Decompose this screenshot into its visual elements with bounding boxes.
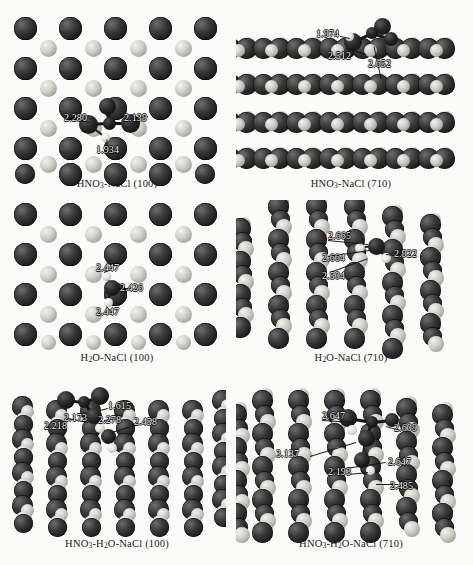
- chloride-ion: [59, 203, 82, 226]
- sodium-ion: [130, 40, 147, 57]
- sodium-ion: [85, 40, 102, 57]
- distance-label: 1.934: [96, 144, 119, 155]
- chloride-ion: [59, 163, 82, 186]
- panel-caption: H2O-NaCl (100): [8, 352, 226, 364]
- chloride-ion: [149, 243, 172, 266]
- distance-label: 2.173: [64, 412, 87, 423]
- sodium-ion: [131, 335, 146, 350]
- chloride-ion: [236, 317, 251, 338]
- chloride-ion: [59, 57, 82, 80]
- sodium-ion: [236, 44, 245, 57]
- chloride-ion: [15, 164, 35, 184]
- sodium-ion: [86, 335, 101, 350]
- sodium-ion: [85, 80, 102, 97]
- chloride-ion: [194, 323, 217, 346]
- sodium-ion: [331, 154, 344, 167]
- distance-label: 2.458: [134, 416, 157, 427]
- chloride-ion: [324, 522, 345, 543]
- sodium-ion: [298, 118, 311, 131]
- sodium-ion: [364, 80, 377, 93]
- oxygen-atom: [368, 238, 385, 255]
- measurement-leader-line: [100, 408, 108, 411]
- molecular-structure-figure: 2.2802.1391.934 HNO3-NaCl (100) 1.9742.5…: [0, 0, 473, 565]
- sodium-ion: [265, 154, 278, 167]
- chloride-ion: [149, 137, 172, 160]
- sodium-ion: [298, 80, 311, 93]
- chloride-ion: [382, 338, 403, 359]
- chloride-ion: [104, 57, 127, 80]
- panel-caption: HNO3-NaCl (710): [236, 178, 466, 190]
- chloride-ion: [194, 137, 217, 160]
- distance-label: 1.974: [316, 28, 339, 39]
- chloride-ion: [149, 323, 172, 346]
- sodium-ion: [236, 118, 245, 131]
- sodium-ion: [298, 44, 311, 57]
- sodium-ion: [331, 118, 344, 131]
- panel-h2o-nacl-710: 2.6652.6642.9222.504 H2O-NaCl (710): [236, 200, 466, 372]
- chloride-ion: [149, 57, 172, 80]
- sodium-ion: [40, 120, 57, 137]
- sodium-ion: [85, 156, 102, 173]
- sodium-ion: [175, 40, 192, 57]
- chloride-ion: [214, 508, 227, 527]
- distance-label: 2.278: [98, 414, 121, 425]
- sodium-ion: [40, 266, 57, 283]
- sodium-ion: [175, 226, 192, 243]
- sodium-ion: [265, 80, 278, 93]
- sodium-ion: [130, 306, 147, 323]
- hydrogen-atom: [101, 133, 110, 142]
- sodium-ion: [364, 118, 377, 131]
- distance-label: 2.485: [390, 480, 413, 491]
- sodium-ion: [40, 40, 57, 57]
- sodium-ion: [430, 118, 443, 131]
- sodium-ion: [175, 266, 192, 283]
- oxygen-atom: [384, 32, 398, 46]
- distance-label: 2.447: [96, 306, 119, 317]
- chloride-ion: [344, 328, 365, 349]
- chloride-ion: [59, 243, 82, 266]
- chloride-ion: [59, 283, 82, 306]
- sodium-ion: [40, 306, 57, 323]
- sodium-ion: [430, 154, 443, 167]
- distance-label: 2.512: [328, 50, 351, 61]
- chloride-ion: [184, 518, 203, 537]
- panel-caption: H2O-NaCl (710): [236, 352, 466, 364]
- sodium-ion: [40, 80, 57, 97]
- panel-canvas: 1.6152.1732.2182.2782.458: [8, 374, 226, 560]
- chloride-ion: [252, 522, 273, 543]
- distance-label: 2.647: [388, 456, 411, 467]
- sodium-ion: [397, 118, 410, 131]
- sodium-ion: [298, 154, 311, 167]
- sodium-ion: [175, 156, 192, 173]
- panel-hno3-h2o-nacl-710: 2.6472.6093.1372.6472.1932.485 HNO3-H2O-…: [236, 374, 466, 560]
- sodium-ion: [175, 306, 192, 323]
- chloride-ion: [150, 518, 169, 537]
- chloride-ion: [149, 97, 172, 120]
- sodium-ion: [176, 335, 191, 350]
- chloride-ion: [116, 518, 135, 537]
- distance-label: 2.218: [44, 420, 67, 431]
- chloride-ion: [104, 163, 127, 186]
- nitrogen-atom: [366, 27, 378, 39]
- distance-label: 2.193: [328, 466, 351, 477]
- sodium-ion: [175, 120, 192, 137]
- hydrogen-atom: [347, 425, 357, 435]
- chloride-ion: [195, 164, 215, 184]
- chloride-ion: [268, 328, 289, 349]
- sodium-ion: [40, 226, 57, 243]
- chloride-ion: [14, 514, 33, 533]
- panel-canvas: 2.6652.6642.9222.504: [236, 200, 466, 372]
- hydrogen-atom: [345, 32, 354, 41]
- panel-hno3-nacl-710: 1.9742.5122.652 HNO3-NaCl (710): [236, 6, 466, 198]
- sodium-ion: [175, 80, 192, 97]
- sodium-ion: [440, 527, 456, 543]
- sodium-ion: [265, 118, 278, 131]
- panel-canvas: 1.9742.5122.652: [236, 6, 466, 198]
- chloride-ion: [360, 522, 381, 543]
- distance-label: 2.922: [394, 248, 417, 259]
- hydrogen-atom: [107, 443, 117, 453]
- distance-label: 2.280: [64, 112, 87, 123]
- sodium-ion: [430, 80, 443, 93]
- chloride-ion: [306, 328, 327, 349]
- nitrogen-atom: [103, 117, 116, 130]
